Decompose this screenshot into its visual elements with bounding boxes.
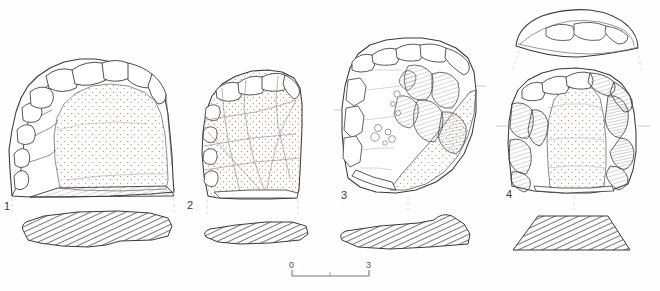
artefact-4-drawing	[496, 68, 650, 193]
plate-drawing	[0, 0, 660, 291]
artefact-number-3: 3	[341, 190, 347, 201]
artefact-2-section	[205, 222, 308, 244]
scale-start-label: 0	[289, 261, 294, 270]
artefact-1-drawing	[9, 59, 174, 197]
artefact-4-section	[513, 216, 630, 250]
artefact-number-1: 1	[4, 201, 10, 212]
artefact-4-top-profile	[512, 10, 642, 72]
artefact-3-section	[341, 215, 470, 249]
artefact-number-4: 4	[506, 189, 512, 200]
artefact-1-section	[22, 211, 172, 247]
artefact-1-guides	[12, 198, 174, 212]
artefact-number-2: 2	[187, 200, 193, 211]
scale-bar	[292, 270, 369, 276]
artefact-3-drawing	[334, 38, 486, 193]
artefact-2-drawing	[202, 70, 302, 199]
scale-end-label: 3	[366, 261, 371, 270]
lithic-plate: 1 2 3 4 0 3	[0, 0, 660, 291]
artefact-2-guides	[207, 200, 298, 214]
